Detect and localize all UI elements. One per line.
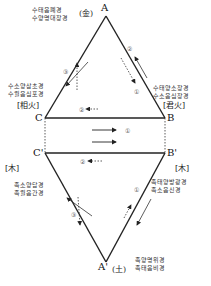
meridian-kidney: 족소음신경 — [151, 186, 187, 194]
element-metal: (金) — [79, 9, 93, 18]
arrow-lower-right-solid — [137, 199, 151, 225]
meridian-right: 수태양소장경 수소음심장경 — [153, 84, 189, 100]
marker-middle-bottom-2: ② — [80, 158, 85, 165]
element-wood-right: [木] — [175, 164, 189, 173]
edge-b-prime-a-prime — [106, 153, 165, 262]
marker-middle-1: ① — [125, 127, 130, 134]
meridian-pericardium: 수궐음심포경 — [8, 90, 44, 98]
point-b: B — [167, 113, 174, 123]
marker-lower-left-3: ③ — [71, 211, 76, 218]
marker-upper-left-3: ③ — [63, 68, 68, 75]
point-c: C — [35, 113, 43, 123]
marker-upper-right-1: ① — [134, 88, 139, 95]
element-wood-left: [木] — [5, 164, 19, 173]
meridian-lung: 수태음폐경 — [32, 6, 68, 14]
arrow-upper-right-solid — [135, 57, 147, 78]
element-minister-fire: [相火] — [17, 101, 39, 110]
point-a-prime: A' — [98, 262, 108, 272]
meridian-lower-left: 족소양담경 족궐음간경 — [14, 181, 44, 197]
marker-lower-right-1: ① — [134, 186, 139, 193]
meridian-bladder: 족태양방광경 — [151, 178, 187, 186]
element-sovereign-fire: [君火] — [163, 101, 185, 110]
meridian-gallbladder: 족소양담경 — [14, 181, 44, 189]
diagram-canvas — [0, 0, 211, 286]
meridian-bottom: 족양명위경 족태음비경 — [135, 256, 165, 272]
point-c-prime: C' — [33, 148, 43, 158]
meridian-heart: 수소음심장경 — [153, 92, 189, 100]
edge-a-c — [45, 16, 106, 118]
edge-a-b — [106, 16, 165, 118]
meridian-large-intestine: 수양명대장경 — [32, 14, 68, 22]
point-b-prime: B' — [167, 148, 177, 158]
meridian-small-intestine: 수태양소장경 — [153, 84, 189, 92]
meridian-liver: 족궐음간경 — [14, 189, 44, 197]
arrow-lower-left-dotted — [78, 197, 80, 225]
element-earth: (土) — [112, 265, 126, 274]
meridian-top: 수태음폐경 수양명대장경 — [32, 6, 68, 22]
meridian-triple-burner: 수소양삼초경 — [8, 82, 44, 90]
edge-c-prime-a-prime — [45, 153, 106, 262]
marker-upper-right-2: ② — [127, 45, 132, 52]
marker-middle-top-2: ② — [79, 106, 84, 113]
meridian-left: 수소양삼초경 수궐음심포경 — [8, 82, 44, 98]
meridian-lower-right: 족태양방광경 족소음신경 — [151, 178, 187, 194]
meridian-stomach: 족양명위경 — [135, 256, 165, 264]
meridian-spleen: 족태음비경 — [135, 264, 165, 272]
arrow-lower-right-dotted — [124, 205, 131, 218]
point-a: A — [101, 3, 108, 13]
